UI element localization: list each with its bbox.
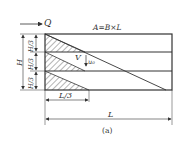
third-length-label: L/3	[58, 91, 72, 100]
length-label: L	[107, 110, 113, 119]
figure-caption: (a)	[102, 126, 112, 135]
layer-label-top: H/3	[27, 40, 35, 53]
velocity-label: V	[75, 53, 82, 62]
layer-label-bottom: H/3	[27, 77, 35, 90]
area-formula: A=B×L	[92, 23, 121, 32]
layer-label-middle: H/3	[27, 58, 35, 71]
flow-label: Q	[44, 18, 52, 28]
height-label: H	[15, 58, 24, 67]
settling-label: u₀	[88, 58, 95, 66]
settling-tank-diagram: Q A=B×L V u₀ H H/3 H/3 H/3 L/3 L (a)	[0, 0, 183, 143]
